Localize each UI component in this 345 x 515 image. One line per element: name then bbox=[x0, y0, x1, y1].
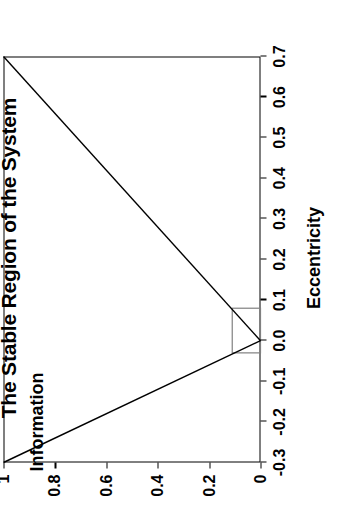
chart-figure: The Stable Region of the System Informat… bbox=[0, 0, 345, 515]
x-tick-label: -0.1 bbox=[270, 367, 288, 395]
x-tick-label: 0.3 bbox=[270, 207, 288, 229]
left-branch-line bbox=[3, 340, 260, 462]
x-tick-mark bbox=[260, 420, 266, 421]
y-tick-label: 0 bbox=[251, 474, 269, 483]
y-tick-label: 0.8 bbox=[45, 474, 63, 496]
y-tick-mark bbox=[260, 462, 261, 468]
y-tick-mark bbox=[209, 462, 210, 468]
x-tick-label: 0.4 bbox=[270, 167, 288, 189]
y-tick-mark bbox=[3, 462, 4, 468]
x-tick-mark bbox=[260, 95, 266, 96]
x-tick-label: -0.2 bbox=[270, 408, 288, 436]
x-axis-label: Eccentricity bbox=[303, 0, 324, 515]
x-tick-mark bbox=[260, 380, 266, 381]
y-tick-label: 0.4 bbox=[148, 474, 166, 496]
y-tick-mark bbox=[54, 462, 55, 468]
x-tick-label: 0.5 bbox=[270, 126, 288, 148]
y-tick-label: 0.6 bbox=[97, 474, 115, 496]
plot-area bbox=[3, 56, 260, 462]
x-tick-mark bbox=[260, 339, 266, 340]
right-branch-line bbox=[3, 56, 260, 340]
y-tick-label: 0.2 bbox=[200, 474, 218, 496]
y-tick-mark bbox=[157, 462, 158, 468]
x-tick-mark bbox=[260, 298, 266, 299]
x-tick-label: 0.1 bbox=[270, 288, 288, 310]
x-tick-label: 0.6 bbox=[270, 85, 288, 107]
x-tick-label: 0.0 bbox=[270, 329, 288, 351]
x-tick-mark bbox=[260, 177, 266, 178]
x-tick-mark bbox=[260, 217, 266, 218]
x-tick-mark bbox=[260, 258, 266, 259]
x-tick-label: 0.7 bbox=[270, 45, 288, 67]
y-tick-label: 1 bbox=[0, 474, 12, 483]
y-tick-mark bbox=[106, 462, 107, 468]
x-tick-mark bbox=[260, 136, 266, 137]
chart-screenshot: The Stable Region of the System Informat… bbox=[0, 0, 345, 515]
x-tick-mark bbox=[260, 55, 266, 56]
x-tick-label: -0.3 bbox=[270, 448, 288, 476]
x-tick-label: 0.2 bbox=[270, 248, 288, 270]
